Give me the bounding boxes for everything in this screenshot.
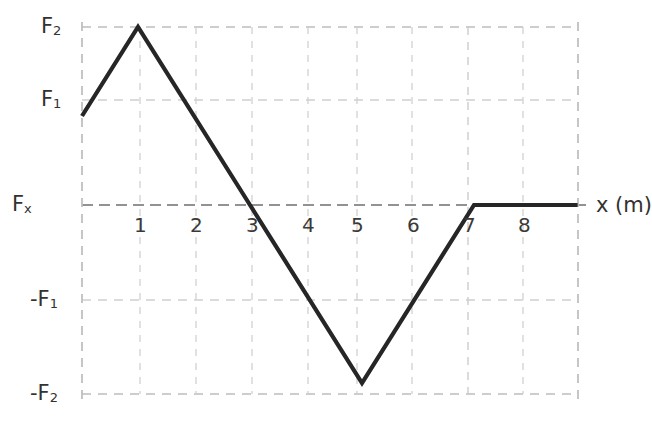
x-tick-label-4: 4: [302, 215, 315, 235]
vertical-gridlines: [82, 22, 578, 399]
x-tick-label-8: 8: [518, 215, 531, 235]
x-tick-label-2: 2: [190, 215, 203, 235]
y-tick-neg-f1-sign: -: [30, 287, 38, 311]
x-tick-label-3: 3: [246, 215, 259, 235]
y-axis-title-fx: Fx: [12, 194, 32, 215]
chart-canvas: [0, 0, 652, 439]
y-tick-f2-base: F: [41, 14, 53, 38]
y-tick-neg-f1-sub: 1: [50, 296, 58, 311]
y-tick-label-f1: F1: [41, 89, 61, 110]
y-tick-label-f2: F2: [41, 16, 61, 37]
y-tick-neg-f2-sub: 2: [50, 390, 58, 405]
y-tick-label-neg-f1: -F1: [30, 289, 58, 310]
x-tick-label-5: 5: [351, 215, 364, 235]
x-tick-label-7: 7: [463, 215, 476, 235]
y-tick-label-neg-f2: -F2: [30, 383, 58, 404]
y-axis-fx-sub: x: [24, 201, 32, 216]
y-axis-fx-base: F: [12, 192, 24, 216]
y-tick-f1-base: F: [41, 87, 53, 111]
x-tick-label-6: 6: [407, 215, 420, 235]
x-axis-title: x (m): [596, 195, 652, 216]
y-tick-neg-f1-base: F: [38, 287, 50, 311]
force-position-chart: F2 F1 Fx -F1 -F2 1 2 3 4 5 6 7 8 x (m): [0, 0, 652, 439]
y-tick-f1-sub: 1: [53, 96, 61, 111]
y-tick-neg-f2-sign: -: [30, 381, 38, 405]
y-tick-neg-f2-base: F: [38, 381, 50, 405]
x-tick-label-1: 1: [134, 215, 147, 235]
y-tick-f2-sub: 2: [53, 23, 61, 38]
